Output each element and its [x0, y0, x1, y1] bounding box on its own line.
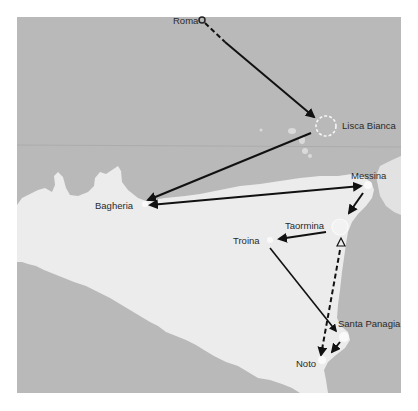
- santa-panagia-marker-icon: [339, 332, 349, 342]
- label-roma: Roma: [173, 15, 199, 26]
- label-messina: Messina: [351, 170, 387, 181]
- messina-marker-icon: [364, 181, 372, 189]
- label-bagheria: Bagheria: [95, 200, 134, 211]
- label-noto: Noto: [296, 358, 316, 369]
- taormina-marker-icon: [332, 219, 348, 235]
- label-santa-panagia: Santa Panagia: [338, 318, 401, 329]
- troina-marker-icon: [267, 237, 273, 243]
- bagheria-marker-icon: [142, 201, 148, 207]
- label-lisca-bianca: Lisca Bianca: [342, 120, 397, 131]
- label-taormina: Taormina: [285, 220, 325, 231]
- label-troina: Troina: [233, 235, 260, 246]
- noto-marker-icon: [318, 356, 326, 364]
- route-map: Roma Lisca Bianca Bagheria Messina Taorm…: [0, 0, 418, 411]
